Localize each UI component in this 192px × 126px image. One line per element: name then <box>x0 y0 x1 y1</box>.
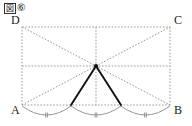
arc-F-B <box>121 106 170 115</box>
figure-root: 図⑥ ABCD <box>0 0 192 126</box>
points-group <box>94 64 98 68</box>
arc-E-F <box>71 106 121 115</box>
center-point-marker <box>94 64 98 68</box>
arc-A-E <box>22 106 71 115</box>
vertex-label-A: A <box>11 103 20 117</box>
solid-P-F <box>96 66 121 105</box>
arc-group <box>22 106 170 118</box>
vertex-label-D: D <box>11 13 20 27</box>
vertex-label-C: C <box>174 13 182 27</box>
solid-P-E <box>71 66 96 105</box>
geometry-diagram: ABCD <box>0 0 192 126</box>
vertex-label-B: B <box>174 103 182 117</box>
